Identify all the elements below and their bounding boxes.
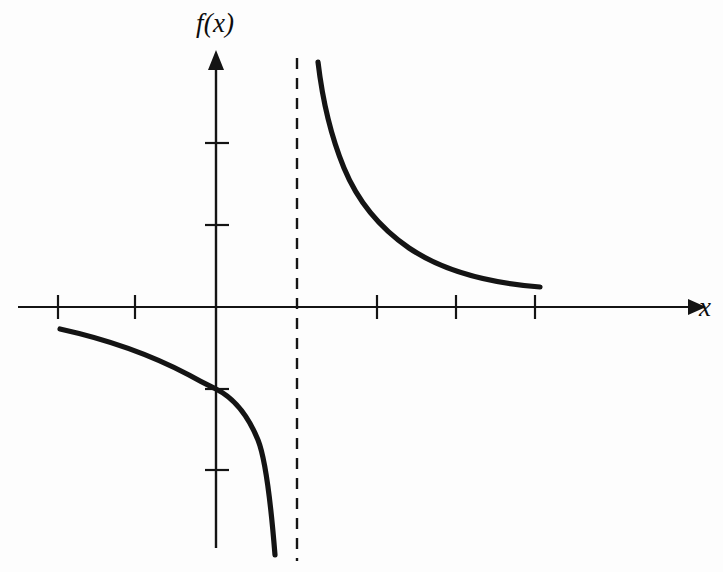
plot-canvas [0,0,723,572]
chart-figure: f(x) x [0,0,723,572]
curve-left-branch [60,329,275,555]
y-axis-label: f(x) [196,8,234,39]
x-axis-label: x [699,292,711,323]
y-axis-arrowhead [208,50,224,70]
curve-right-branch [318,62,540,287]
y-axis [205,50,229,548]
x-axis [18,295,706,319]
